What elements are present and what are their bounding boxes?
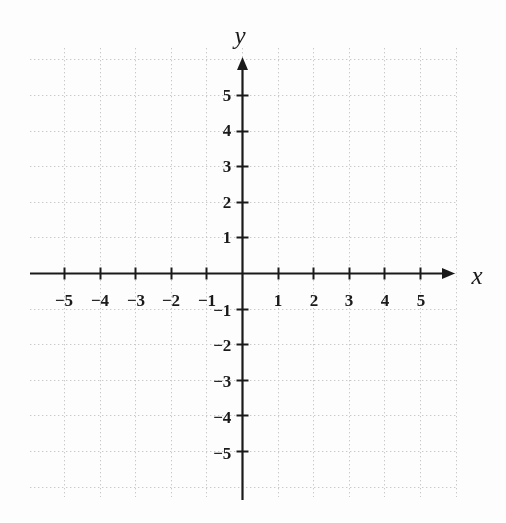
x-tick-label: 3 xyxy=(345,292,353,309)
x-axis-name-label: x xyxy=(471,263,482,288)
x-tick-label: −2 xyxy=(162,292,180,309)
y-tick-label: 4 xyxy=(223,122,231,139)
x-tick-label: −4 xyxy=(91,292,109,309)
axes-layer xyxy=(0,0,506,523)
y-tick-label: −2 xyxy=(213,337,231,354)
y-tick-label: 2 xyxy=(223,194,231,211)
x-tick-label: 4 xyxy=(381,292,389,309)
y-tick-label: −4 xyxy=(213,409,231,426)
y-tick-label: 3 xyxy=(223,158,231,175)
y-tick-label: −1 xyxy=(213,302,231,319)
x-tick-label: 5 xyxy=(417,292,425,309)
x-tick-label: −5 xyxy=(55,292,73,309)
x-tick-label: 1 xyxy=(274,292,282,309)
x-tick-label: 2 xyxy=(310,292,318,309)
y-tick-label: 5 xyxy=(223,87,231,104)
x-tick-label: −3 xyxy=(127,292,145,309)
y-tick-label: −5 xyxy=(213,445,231,462)
y-tick-label: 1 xyxy=(223,229,231,246)
y-axis-name-label: y xyxy=(234,23,245,48)
coordinate-plane-figure: −5−4−3−2−112345 54321−1−2−3−4−5 x y xyxy=(0,0,506,523)
y-tick-label: −3 xyxy=(213,373,231,390)
